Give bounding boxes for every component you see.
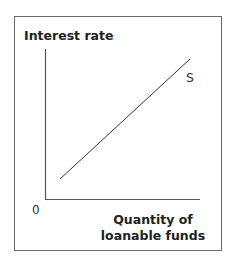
x-axis-label-line2: loanable funds [98,228,208,244]
y-axis-label: Interest rate [24,28,113,43]
supply-curve-s [60,59,190,179]
x-axis-label: Quantity of loanable funds [98,212,208,244]
x-axis-label-line1: Quantity of [98,212,208,228]
origin-label: 0 [32,203,40,217]
supply-curve-label: S [186,70,194,85]
